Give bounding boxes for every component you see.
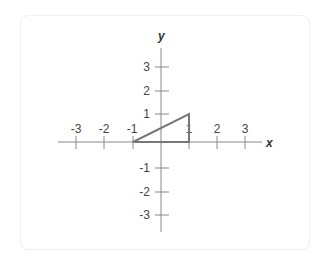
y-tick-label: -2: [139, 185, 150, 199]
x-axis-label: x: [265, 136, 274, 150]
x-tick-label: -2: [99, 122, 110, 136]
y-tick-label: -1: [139, 161, 150, 175]
y-tick-label: 3: [143, 60, 150, 74]
x-tick-label: -1: [127, 122, 138, 136]
y-axis-label: y: [157, 29, 166, 43]
x-tick-label: 3: [242, 122, 249, 136]
coordinate-plane: -3 -2 -1 1 2 3 3 2 1 -1 -2 -3 x y: [0, 0, 328, 265]
x-tick-label: -3: [71, 122, 82, 136]
y-tick-label: -3: [139, 208, 150, 222]
x-tick-label: 2: [214, 122, 221, 136]
y-tick-label: 1: [143, 107, 150, 121]
y-tick-label: 2: [143, 84, 150, 98]
